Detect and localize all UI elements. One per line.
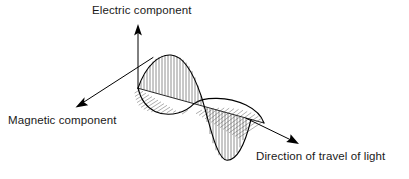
label-direction-of-travel: Direction of travel of light: [256, 150, 385, 163]
magnetic-component-wave: [135, 88, 264, 138]
magnetic-axis-arrowhead: [76, 97, 89, 107]
direction-axis: [246, 118, 299, 144]
electric-component-wave: [138, 55, 251, 160]
label-magnetic-component: Magnetic component: [8, 114, 117, 127]
electric-axis: [134, 24, 142, 89]
em-wave-diagram: Electric component Magnetic component Di…: [0, 0, 409, 179]
label-electric-component: Electric component: [92, 4, 192, 17]
